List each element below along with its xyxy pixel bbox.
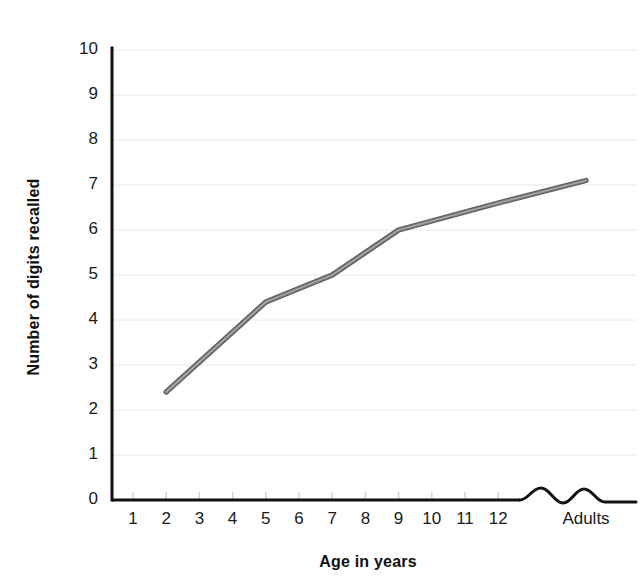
data-line-edge [166,181,586,393]
x-tick-label-adults: Adults [541,509,631,529]
x-axis-title: Age in years [104,553,632,571]
y-tick-label: 0 [64,489,98,509]
y-tick-label: 5 [64,264,98,284]
y-tick-label: 9 [64,84,98,104]
x-tick-label: 12 [478,509,518,529]
y-tick-label: 10 [64,39,98,59]
x-tick-mark-group [133,492,498,499]
y-tick-label: 6 [64,219,98,239]
data-line-highlight [166,181,586,393]
y-tick-label: 8 [64,129,98,149]
x-axis-break-squiggle-icon [520,488,636,503]
y-axis-title: Number of digits recalled [25,147,43,407]
y-tick-label: 2 [64,399,98,419]
y-tick-label: 4 [64,309,98,329]
data-line-digits-recalled [166,181,586,393]
y-tick-label: 1 [64,444,98,464]
y-tick-label: 7 [64,174,98,194]
y-tick-label: 3 [64,354,98,374]
data-series-group [166,181,586,393]
gridline-group [112,50,636,455]
chart-figure: 012345678910 123456789101112Adults Numbe… [0,0,644,585]
